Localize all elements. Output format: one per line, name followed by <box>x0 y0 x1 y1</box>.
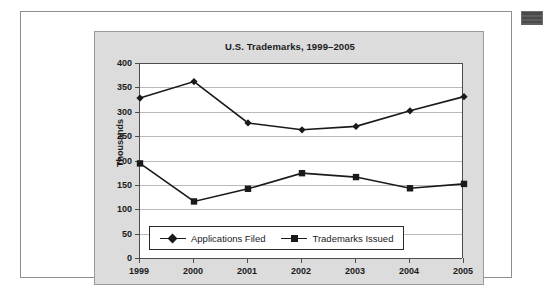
y-tick-label: 400 <box>117 58 132 68</box>
legend-label: Applications Filed <box>191 233 265 244</box>
data-point-diamond <box>352 123 359 130</box>
x-tick-mark <box>301 258 302 263</box>
x-tick-mark <box>193 258 194 263</box>
x-tick-label: 2004 <box>399 266 419 276</box>
y-tick-label: 150 <box>117 180 132 190</box>
data-point-square <box>137 160 143 166</box>
x-tick-mark <box>247 258 248 263</box>
y-tick-label: 50 <box>122 229 132 239</box>
data-point-diamond <box>406 107 413 114</box>
legend-entry[interactable]: Trademarks Issued <box>281 233 393 244</box>
y-tick-label: 100 <box>117 204 132 214</box>
x-axis: 1999200020012002200320042005 <box>139 258 463 282</box>
chart-title: U.S. Trademarks, 1999–2005 <box>95 41 485 52</box>
x-tick-label: 2002 <box>291 266 311 276</box>
series-line <box>140 82 464 130</box>
legend-entry[interactable]: Applications Filed <box>160 233 265 244</box>
data-point-square <box>353 174 359 180</box>
chart-legend: Applications FiledTrademarks Issued <box>149 226 404 250</box>
x-tick-mark <box>139 258 140 263</box>
y-tick-label: 250 <box>117 131 132 141</box>
data-point-square <box>191 198 197 204</box>
legend-diamond-icon <box>160 233 186 243</box>
data-point-square <box>299 170 305 176</box>
x-tick-label: 2000 <box>183 266 203 276</box>
data-point-square <box>407 185 413 191</box>
chart-container: U.S. Trademarks, 1999–2005 Thousands 050… <box>94 31 484 285</box>
series-line <box>140 163 464 201</box>
x-tick-mark <box>463 258 464 263</box>
x-tick-mark <box>409 258 410 263</box>
legend-label: Trademarks Issued <box>312 233 393 244</box>
data-point-diamond <box>460 93 467 100</box>
data-point-diamond <box>136 95 143 102</box>
legend-square-icon <box>281 233 307 243</box>
data-point-square <box>461 181 467 187</box>
page-corner-marker <box>521 11 543 25</box>
x-tick-label: 2003 <box>345 266 365 276</box>
data-point-square <box>245 186 251 192</box>
y-tick-label: 300 <box>117 107 132 117</box>
data-point-diamond <box>298 126 305 133</box>
x-tick-mark <box>355 258 356 263</box>
y-tick-label: 0 <box>127 253 132 263</box>
x-tick-label: 2001 <box>237 266 257 276</box>
x-tick-label: 1999 <box>129 266 149 276</box>
x-tick-label: 2005 <box>453 266 473 276</box>
y-tick-label: 200 <box>117 156 132 166</box>
figure-frame: U.S. Trademarks, 1999–2005 Thousands 050… <box>20 11 512 278</box>
y-tick-label: 350 <box>117 82 132 92</box>
